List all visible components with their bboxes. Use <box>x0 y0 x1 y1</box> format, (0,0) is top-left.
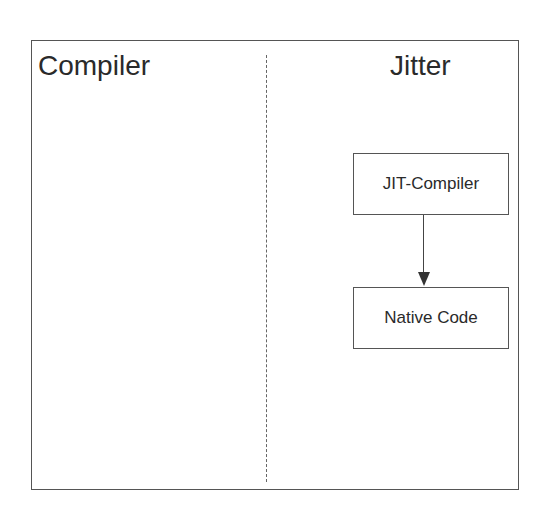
compiler-section-title: Compiler <box>38 50 150 82</box>
section-divider <box>266 55 267 482</box>
jit-compiler-label: JIT-Compiler <box>383 174 479 194</box>
jit-compiler-node: JIT-Compiler <box>353 153 509 215</box>
arrow-down-icon <box>418 272 430 286</box>
native-code-node: Native Code <box>353 287 509 349</box>
jitter-section-title: Jitter <box>390 50 451 82</box>
diagram-frame <box>31 40 519 490</box>
flow-arrow-line <box>423 215 424 275</box>
native-code-label: Native Code <box>384 308 478 328</box>
